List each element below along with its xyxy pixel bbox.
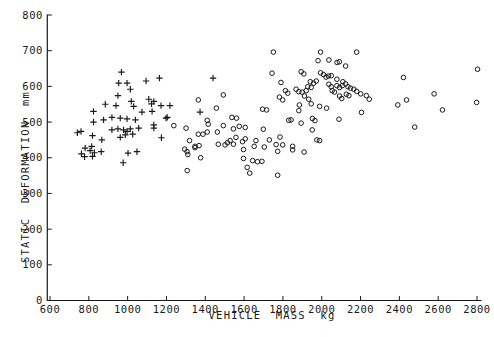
data-point-circle	[404, 98, 409, 103]
data-point-plus	[125, 150, 131, 156]
data-point-plus	[132, 117, 138, 123]
data-point-circle	[474, 100, 479, 105]
data-point-circle	[412, 125, 417, 130]
data-point-circle	[230, 115, 235, 120]
data-point-circle	[302, 94, 307, 99]
data-point-plus	[109, 127, 115, 133]
data-point-circle	[278, 135, 283, 140]
data-point-plus	[120, 160, 126, 166]
data-point-circle	[275, 173, 280, 178]
data-point-circle	[221, 123, 226, 128]
data-point-circle	[432, 92, 437, 97]
data-point-plus	[127, 86, 133, 92]
data-point-plus	[109, 114, 115, 120]
data-point-plus	[134, 148, 140, 154]
data-point-plus	[167, 102, 173, 108]
data-point-plus	[98, 148, 104, 154]
data-point-circle	[237, 124, 242, 129]
data-point-plus	[143, 78, 149, 84]
data-point-plus	[197, 109, 203, 115]
data-point-circle	[172, 123, 177, 128]
x-tick-label: 1000	[114, 303, 141, 315]
data-point-plus	[89, 143, 95, 149]
data-point-plus	[116, 80, 122, 86]
data-point-plus	[99, 137, 105, 143]
data-point-circle	[271, 50, 276, 55]
data-point-circle	[231, 142, 236, 147]
data-point-circle	[241, 156, 246, 161]
data-point-circle	[337, 117, 342, 122]
x-tick-label: 2400	[386, 303, 413, 315]
data-point-circle	[324, 106, 329, 111]
data-point-circle	[279, 80, 284, 85]
data-point-plus	[124, 80, 130, 86]
data-point-circle	[221, 93, 226, 98]
data-point-circle	[261, 127, 266, 132]
data-point-circle	[275, 149, 280, 154]
data-point-plus	[149, 108, 155, 114]
data-point-circle	[241, 147, 246, 152]
data-point-circle	[396, 103, 401, 108]
data-point-circle	[359, 110, 364, 115]
data-point-circle	[234, 135, 239, 140]
data-point-circle	[267, 138, 272, 143]
x-tick-label: 2800	[463, 303, 490, 315]
data-point-plus	[90, 119, 96, 125]
data-point-plus	[117, 115, 123, 121]
data-point-plus	[74, 130, 80, 136]
x-axis-title: VEHICLE MASS kg	[209, 309, 336, 321]
data-point-circle	[185, 168, 190, 173]
data-point-plus	[158, 102, 164, 108]
data-point-circle	[196, 98, 201, 103]
scatter-plot: 6008001000120014001600180020002200240026…	[0, 0, 494, 337]
y-tick-label: 0	[36, 294, 43, 306]
data-point-circle	[297, 108, 302, 113]
data-point-circle	[196, 132, 201, 137]
data-point-circle	[187, 138, 192, 143]
data-point-circle	[335, 77, 340, 82]
data-point-circle	[310, 128, 315, 133]
data-point-circle	[317, 104, 322, 109]
data-point-circle	[280, 98, 285, 103]
data-point-circle	[440, 108, 445, 113]
data-point-circle	[343, 64, 348, 69]
data-point-circle	[260, 159, 265, 164]
data-point-circle	[205, 130, 210, 135]
data-point-circle	[475, 67, 480, 72]
axes	[47, 15, 481, 301]
data-point-circle	[198, 155, 203, 160]
data-point-circle	[262, 145, 267, 150]
data-point-plus	[151, 122, 157, 128]
x-tick-label: 1200	[153, 303, 180, 315]
data-point-plus	[158, 135, 164, 141]
data-point-plus	[78, 128, 84, 134]
data-point-plus	[81, 153, 87, 159]
data-point-circle	[184, 126, 189, 131]
x-tick-label: 2600	[425, 303, 452, 315]
data-point-plus	[115, 92, 121, 98]
data-point-circle	[240, 139, 245, 144]
data-point-plus	[90, 108, 96, 114]
scatter-figure: 6008001000120014001600180020002200240026…	[0, 0, 494, 337]
data-point-plus	[156, 75, 162, 81]
data-point-circle	[316, 58, 321, 63]
data-point-plus	[102, 101, 108, 107]
data-point-circle	[186, 152, 191, 157]
data-point-plus	[78, 151, 84, 157]
data-point-circle	[214, 106, 219, 111]
x-tick-label: 2200	[347, 303, 374, 315]
data-point-circle	[270, 71, 275, 76]
data-point-circle	[255, 159, 260, 164]
data-point-circle	[250, 158, 255, 163]
data-point-plus	[164, 114, 170, 120]
y-tick-label: 800	[22, 9, 42, 21]
data-point-plus	[139, 109, 145, 115]
data-point-circle	[327, 58, 332, 63]
x-tick-label: 600	[40, 303, 60, 315]
y-tick-label: 700	[22, 44, 42, 56]
data-point-circle	[309, 102, 314, 107]
data-point-circle	[401, 75, 406, 80]
data-point-circle	[247, 171, 252, 176]
data-point-circle	[231, 127, 236, 132]
data-point-circle	[367, 97, 372, 102]
